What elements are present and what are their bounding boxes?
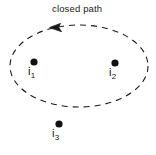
point-label-i3-subscript: 3 [55, 133, 59, 142]
physics-closed-path-figure: closed path i1 i2 i3 [0, 0, 156, 155]
point-label-i2-subscript: 2 [112, 72, 116, 81]
point-label-i1: i1 [28, 65, 35, 79]
point-label-i1-subscript: 1 [31, 71, 35, 80]
figure-canvas [0, 0, 156, 155]
direction-arrow-icon [50, 23, 62, 31]
point-label-i2: i2 [109, 66, 116, 80]
point-label-i3: i3 [52, 127, 59, 141]
closed-path-caption: closed path [52, 3, 102, 14]
